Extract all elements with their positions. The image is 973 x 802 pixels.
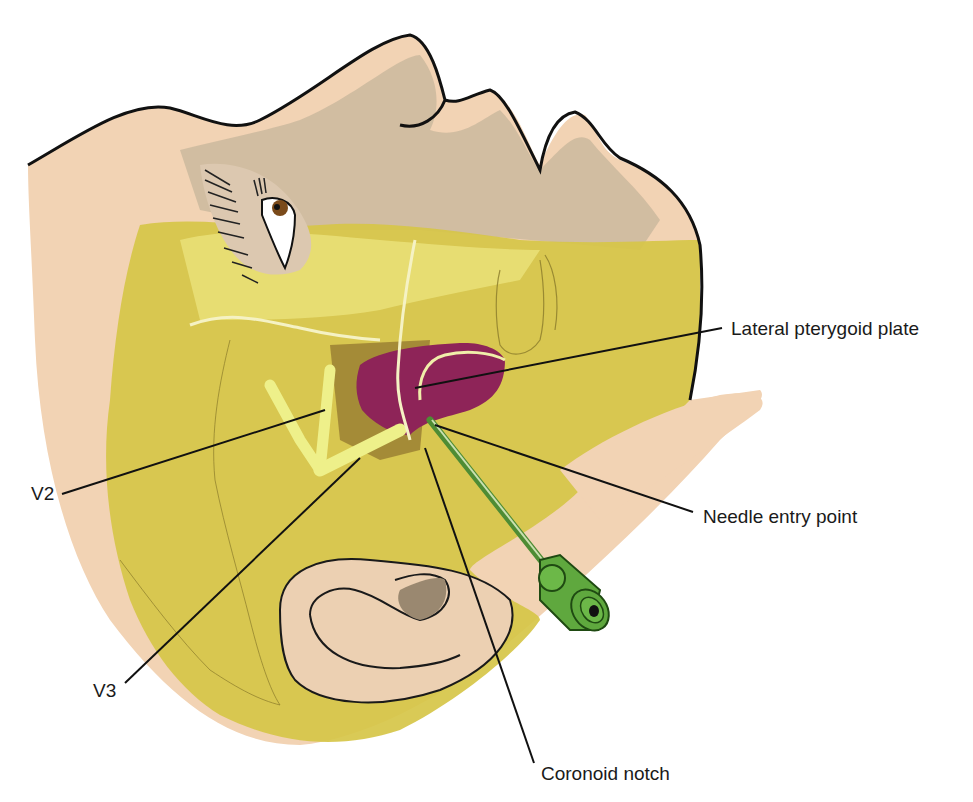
pupil: [274, 204, 280, 210]
label-v2: V2: [31, 484, 54, 503]
label-needle-entry-point: Needle entry point: [703, 507, 857, 526]
face-illustration: [0, 0, 973, 802]
label-v3: V3: [93, 681, 116, 700]
anatomical-figure: Lateral pterygoid plate V2 V3 Needle ent…: [0, 0, 973, 802]
label-coronoid-notch: Coronoid notch: [541, 764, 670, 783]
label-lateral-pterygoid-plate: Lateral pterygoid plate: [731, 319, 919, 338]
